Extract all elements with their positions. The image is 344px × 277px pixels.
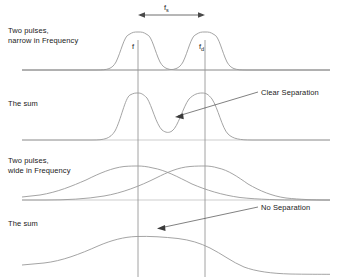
separation-label-fs: fs xyxy=(164,3,169,12)
leader-line-clear-separation xyxy=(175,92,258,119)
frequency-separation-figure: Two pulses, narrow in Frequency The sum … xyxy=(0,0,344,277)
curve-panel2-sum xyxy=(22,93,330,140)
panel-label-the-sum-wide: The sum xyxy=(8,219,38,229)
panel-label-two-pulses-narrow: Two pulses, narrow in Frequency xyxy=(8,26,78,46)
frequency-label-f-base: f xyxy=(132,42,134,51)
separation-label-subscript: s xyxy=(166,7,169,13)
frequency-label-f: f xyxy=(132,42,134,51)
panel-label-the-sum-narrow: The sum xyxy=(8,99,38,109)
annotation-clear-separation: Clear Separation xyxy=(261,88,319,97)
panel-label-two-pulses-wide: Two pulses, wide in Frequency xyxy=(8,156,71,176)
frequency-label-fd: fd xyxy=(199,42,204,51)
leader-line-no-separation xyxy=(157,207,258,231)
separation-arrow xyxy=(138,12,205,17)
curve-panel4-sum xyxy=(22,236,330,274)
frequency-label-fd-subscript: d xyxy=(201,46,204,52)
annotation-no-separation: No Separation xyxy=(261,203,310,212)
